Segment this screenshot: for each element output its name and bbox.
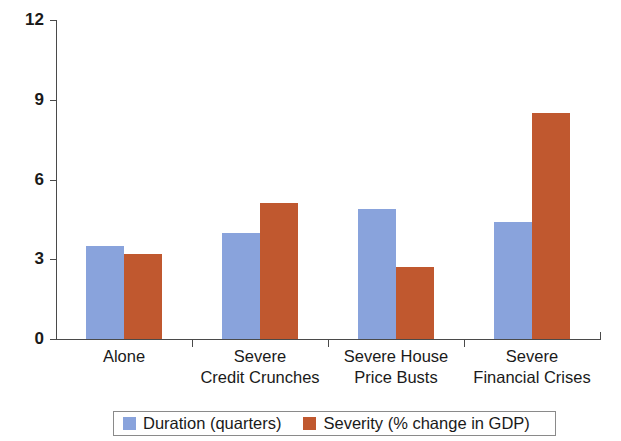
legend-swatch-severity-icon	[303, 417, 316, 430]
plot-area	[56, 20, 600, 339]
bar-duration	[358, 209, 396, 339]
legend-swatch-duration-icon	[123, 417, 136, 430]
bar-severity	[260, 203, 298, 339]
category-label: Severe Credit Crunches	[192, 346, 328, 388]
y-tick-label: 9	[0, 90, 57, 110]
bar-duration	[86, 246, 124, 339]
legend-label-duration: Duration (quarters)	[143, 414, 281, 433]
bar-severity	[396, 267, 434, 339]
legend-item-duration: Duration (quarters)	[123, 414, 281, 433]
bar-chart: 036912 AloneSevere Credit CrunchesSevere…	[0, 0, 621, 441]
chart-legend: Duration (quarters) Severity (% change i…	[113, 411, 556, 436]
category-label: Alone	[56, 346, 192, 367]
y-tick-label: 6	[0, 170, 57, 190]
category-label: Severe Financial Crises	[464, 346, 600, 388]
y-tick-label: 0	[0, 329, 57, 349]
legend-label-severity: Severity (% change in GDP)	[323, 414, 529, 433]
bar-duration	[222, 233, 260, 339]
x-axis-end-tick	[600, 332, 601, 340]
bar-severity	[532, 113, 570, 339]
legend-item-severity: Severity (% change in GDP)	[303, 414, 529, 433]
bar-duration	[494, 222, 532, 339]
bar-severity	[124, 254, 162, 339]
y-tick-label: 12	[0, 10, 57, 30]
y-tick-label: 3	[0, 249, 57, 269]
category-label: Severe House Price Busts	[328, 346, 464, 388]
